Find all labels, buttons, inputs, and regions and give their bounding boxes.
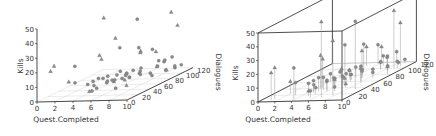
data-point-circle [115,73,118,76]
data-point-circle [180,63,183,66]
y-tick-label: 60 [383,80,392,88]
y-tick-label: 0 [346,99,350,107]
box-edge [258,31,342,33]
data-point-circle [395,50,398,53]
data-point-circle [171,55,174,58]
y-tick-label: 20 [358,93,367,101]
data-point-circle [132,69,135,72]
data-point-triangle [98,53,102,56]
data-point-triangle [169,10,173,13]
data-point-triangle [49,69,53,72]
z-tick-label: 50 [246,30,255,38]
data-point-circle [137,46,140,49]
data-point-triangle [319,53,323,56]
chart-left: 024681001020304050020406080100120 Quest.… [16,10,223,124]
data-point-circle [312,83,315,86]
data-point-circle [292,66,295,69]
data-point-circle [139,73,142,76]
chart-right: 024681001020304050020406080100120 Quest.… [231,0,434,124]
data-point-circle [345,72,348,75]
data-point-circle [376,43,379,46]
z-tick-label: 20 [25,69,34,77]
x-axis-line [37,100,127,102]
data-point-triangle [380,45,384,48]
data-point-circle [106,79,109,82]
z-tick-label: 30 [25,55,34,63]
data-point-circle [86,83,89,86]
bounding-box [258,0,416,102]
y-axis-line [342,62,416,100]
x-axis-label: Quest.Completed [245,115,311,124]
data-point-circle [92,84,95,87]
data-point-circle [307,82,310,85]
data-point-circle [343,43,346,46]
z-axis-label: Kills [231,65,240,80]
box-edge [342,0,416,31]
grid-line-y [103,68,193,70]
y-tick-label: 40 [371,86,380,94]
data-point-triangle [288,79,292,82]
data-point-circle [379,60,382,63]
data-point-circle [118,46,121,49]
x-tick-label: 2 [273,105,277,113]
data-point-circle [156,64,159,67]
y-tick-label: 40 [153,88,162,96]
data-point-circle [314,86,317,89]
data-point-circle [173,64,176,67]
y-axis-label: Dialogues [422,53,431,90]
data-point-circle [349,73,352,76]
data-point-triangle [331,39,335,42]
data-point-circle [73,81,76,84]
data-point-circle [101,77,104,80]
y-tick-label: 120 [197,67,210,75]
data-point-circle [92,80,95,83]
x-tick-label: 6 [306,104,311,112]
data-point-circle [73,65,76,68]
data-point-circle [124,74,127,77]
data-point-circle [294,81,297,84]
data-point-circle [150,74,153,77]
y-tick-label: 80 [396,73,405,81]
y-tick-label: 60 [164,83,173,91]
data-point-circle [312,79,315,82]
data-point-circle [114,87,117,90]
z-tick-label: 40 [246,43,255,51]
data-point-triangle [176,23,180,26]
data-point-circle [333,85,336,88]
data-point-triangle [102,16,106,19]
data-point-triangle [319,20,323,23]
data-point-circle [97,77,100,80]
y-tick-label: 80 [175,77,184,85]
data-point-circle [354,66,357,69]
data-point-circle [309,89,312,92]
z-tick-label: 30 [246,57,255,65]
y-tick-label: 0 [131,99,135,107]
data-point-circle [121,77,124,80]
z-axis-label: Kills [16,58,25,73]
data-point-triangle [52,64,56,67]
data-point-circle [317,76,320,79]
data-point-circle [386,55,389,58]
data-point-triangle [398,21,402,24]
grid-line-y [59,89,149,91]
data-point-triangle [114,36,118,39]
data-points [49,10,183,93]
z-tick-label: 10 [246,85,255,93]
z-tick-label: 0 [251,99,255,107]
x-tick-label: 6 [89,104,94,112]
grid-line-y [48,95,138,97]
data-point-circle [106,75,109,78]
y-tick-label: 20 [142,94,151,102]
data-point-triangle [392,8,396,11]
floor-grid [258,62,416,102]
data-point-circle [128,76,131,79]
3d-scatter-figure: 024681001020304050020406080100120 Quest.… [0,0,436,136]
z-tick-label: 20 [246,71,255,79]
x-axis-label: Quest.Completed [33,115,99,124]
axes [35,29,193,104]
data-point-circle [322,76,325,79]
z-tick-label: 0 [30,99,34,107]
y-tick-label: 100 [408,67,421,75]
data-point-circle [325,79,328,82]
data-point-circle [403,58,406,61]
